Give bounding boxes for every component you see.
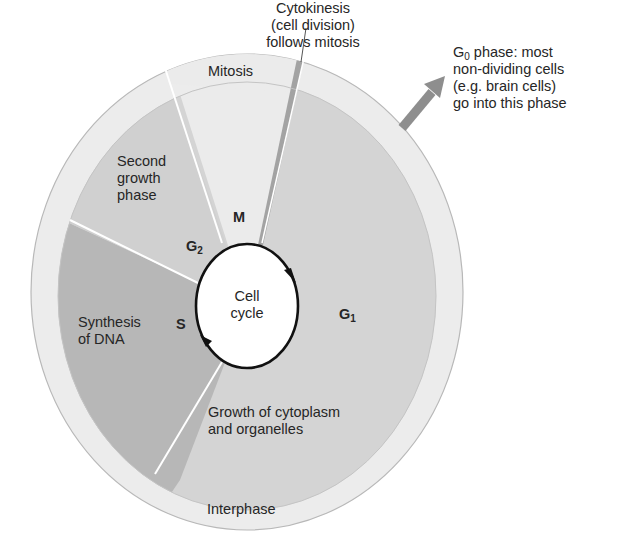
g1-description-label: Growth of cytoplasm and organelles <box>208 404 340 438</box>
center-line-1: Cell <box>222 288 272 305</box>
s-code-label: S <box>176 316 186 333</box>
g2-code-label: G2 <box>186 238 203 255</box>
g1-desc-line-1: Growth of cytoplasm <box>208 404 340 421</box>
g2-desc-line-3: phase <box>117 187 166 204</box>
g2-desc-line-1: Second <box>117 153 166 170</box>
g1-desc-line-2: and organelles <box>208 421 340 438</box>
g2-desc-line-2: growth <box>117 170 166 187</box>
g2-description-label: Second growth phase <box>117 153 166 204</box>
cytokinesis-line-2: (cell division) <box>258 17 368 34</box>
g0-line-3: (e.g. brain cells) <box>453 78 567 95</box>
cytokinesis-line-1: Cytokinesis <box>258 0 368 17</box>
g0-line-1: G0 phase: most <box>453 44 567 61</box>
cytokinesis-label: Cytokinesis (cell division) follows mito… <box>258 0 368 51</box>
center-line-2: cycle <box>222 305 272 322</box>
s-description-label: Synthesis of DNA <box>78 314 141 348</box>
mitosis-label: Mitosis <box>208 63 253 80</box>
s-desc-line-2: of DNA <box>78 331 141 348</box>
interphase-label: Interphase <box>207 501 276 518</box>
g1-code-label: G1 <box>339 306 356 323</box>
m-code-label: M <box>233 209 245 226</box>
g0-label: G0 phase: most non-dividing cells (e.g. … <box>453 44 567 112</box>
g0-line-4: go into this phase <box>453 95 567 112</box>
g0-arrow-icon <box>402 76 445 128</box>
cytokinesis-line-3: follows mitosis <box>258 34 368 51</box>
cell-cycle-center-label: Cell cycle <box>222 288 272 322</box>
s-desc-line-1: Synthesis <box>78 314 141 331</box>
g0-line-2: non-dividing cells <box>453 61 567 78</box>
